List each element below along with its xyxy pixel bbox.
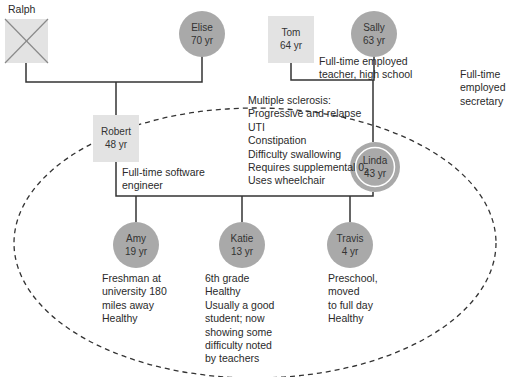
note-line: teacher, high school: [319, 68, 412, 81]
sally-age: 63 yr: [351, 34, 397, 47]
tom-note: Full-time employed teacher, high school: [319, 55, 412, 82]
note-line: showing some: [205, 326, 274, 339]
note-line: employed: [460, 81, 506, 94]
note-line: Healthy: [328, 312, 378, 325]
note-line: engineer: [122, 179, 205, 192]
amy-note: Freshman at university 180 miles away He…: [102, 272, 167, 326]
ralph-node: [5, 19, 48, 63]
robert-label: Robert 48 yr: [93, 125, 139, 151]
sally-name: Sally: [351, 21, 397, 34]
travis-note: Preschool, moved to full day Healthy: [328, 272, 378, 326]
amy-label: Amy 19 yr: [113, 232, 159, 258]
katie-age: 13 yr: [219, 245, 265, 258]
travis-label: Travis 4 yr: [327, 232, 373, 258]
amy-age: 19 yr: [113, 245, 159, 258]
subscript: 2: [364, 167, 368, 174]
note-line: Full-time employed: [319, 55, 412, 68]
katie-label: Katie 13 yr: [219, 232, 265, 258]
note-line: Multiple sclerosis:: [248, 94, 368, 107]
linda-note: Multiple sclerosis: Progressive and rela…: [248, 94, 368, 188]
tom-label: Tom 64 yr: [268, 26, 314, 52]
robert-age: 48 yr: [93, 138, 139, 151]
note-line: miles away: [102, 299, 167, 312]
note-line: Full-time: [460, 68, 506, 81]
sally-label: Sally 63 yr: [351, 21, 397, 47]
robert-name: Robert: [93, 125, 139, 138]
elise-label: Elise 70 yr: [179, 21, 225, 47]
note-line: to full day: [328, 299, 378, 312]
ralph-elise-marriage-line: [26, 56, 202, 82]
katie-note: 6th grade Healthy Usually a good student…: [205, 272, 274, 366]
note-line: student; now: [205, 312, 274, 325]
note-line: Full-time software: [122, 166, 205, 179]
note-line: Uses wheelchair: [248, 174, 368, 187]
note-line: Freshman at: [102, 272, 167, 285]
note-line: by teachers: [205, 352, 274, 365]
note-line: secretary: [460, 95, 506, 108]
travis-name: Travis: [327, 232, 373, 245]
tom-age: 64 yr: [268, 39, 314, 52]
note-line: Healthy: [205, 285, 274, 298]
katie-name: Katie: [219, 232, 265, 245]
note-line: 6th grade: [205, 272, 274, 285]
note-text: Requires supplemental 0: [248, 161, 364, 173]
note-line: Requires supplemental 02: [248, 161, 368, 174]
sally-note: Full-time employed secretary: [460, 68, 506, 108]
note-line: Preschool,: [328, 272, 378, 285]
elise-age: 70 yr: [179, 34, 225, 47]
note-line: moved: [328, 285, 378, 298]
elise-name: Elise: [179, 21, 225, 34]
note-line: difficulty noted: [205, 339, 274, 352]
robert-note: Full-time software engineer: [122, 166, 205, 193]
tom-name: Tom: [268, 26, 314, 39]
note-line: Constipation: [248, 134, 368, 147]
amy-name: Amy: [113, 232, 159, 245]
note-line: Difficulty swallowing: [248, 148, 368, 161]
note-line: Healthy: [102, 312, 167, 325]
note-line: UTI: [248, 121, 368, 134]
travis-age: 4 yr: [327, 245, 373, 258]
ralph-name: Ralph: [8, 3, 35, 16]
note-line: Usually a good: [205, 299, 274, 312]
note-line: university 180: [102, 285, 167, 298]
note-line: Progressive and relapse: [248, 107, 368, 120]
